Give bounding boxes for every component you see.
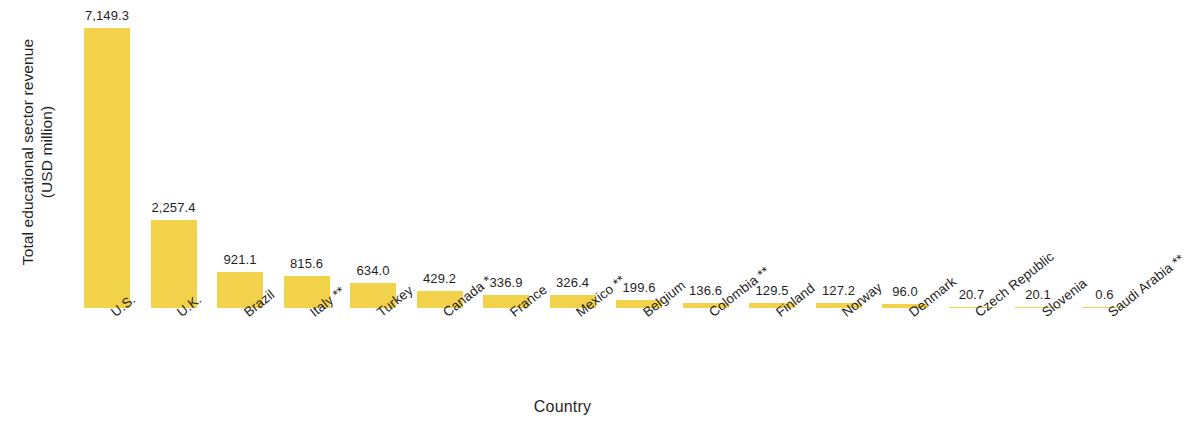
bar-group: 0.6 [1082, 8, 1128, 308]
bar-value-label: 429.2 [423, 271, 456, 286]
bar-group: 326.4 [550, 8, 596, 308]
bar-value-label: 20.1 [1025, 287, 1051, 302]
y-axis-title-line-1: Total educational sector revenue [19, 39, 38, 265]
bar-group: 815.6 [284, 8, 330, 308]
bar-group: 127.2 [816, 8, 862, 308]
bar-value-label: 921.1 [223, 252, 256, 267]
bar-value-label: 20.7 [959, 287, 985, 302]
bar-value-label: 815.6 [290, 256, 323, 271]
bar-group: 199.6 [616, 8, 662, 308]
bar-group: 7,149.3 [84, 8, 130, 308]
bar-group: 921.1 [217, 8, 263, 308]
bar-value-label: 127.2 [822, 283, 855, 298]
plot-area: 7,149.32,257.4921.1815.6634.0429.2336.93… [60, 8, 1120, 308]
bar-value-label: 634.0 [356, 263, 389, 278]
bar-group: 429.2 [417, 8, 463, 308]
bar-value-label: 96.0 [892, 284, 918, 299]
bar-group: 2,257.4 [151, 8, 197, 308]
bar-value-label: 7,149.3 [85, 8, 129, 23]
bar-value-label: 336.9 [489, 275, 522, 290]
bar-value-label: 326.4 [556, 275, 589, 290]
bar-value-label: 199.6 [622, 280, 655, 295]
y-axis-title: Total educational sector revenue (USD mi… [14, 2, 62, 302]
bar-value-label: 129.5 [755, 283, 788, 298]
bar-group: 129.5 [749, 8, 795, 308]
bar-group: 96.0 [882, 8, 928, 308]
bar-group: 20.7 [949, 8, 995, 308]
bar-value-label: 2,257.4 [151, 200, 195, 215]
bar-group: 336.9 [483, 8, 529, 308]
bar-value-label: 136.6 [689, 283, 722, 298]
y-axis-title-line-2: (USD million) [38, 106, 57, 199]
bar-group: 136.6 [683, 8, 729, 308]
bar-group: 634.0 [350, 8, 396, 308]
bar[interactable] [84, 28, 130, 308]
bar-value-label: 0.6 [1095, 287, 1113, 302]
x-axis-title: Country [0, 398, 1125, 416]
